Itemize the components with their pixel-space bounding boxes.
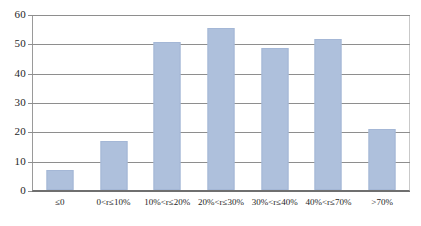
y-tick-mark-30 (28, 103, 32, 104)
bar-slot (194, 16, 248, 190)
bar-slot (87, 16, 141, 190)
bars-container (33, 16, 409, 190)
y-tick-mark-20 (28, 132, 32, 133)
bar-slot (140, 16, 194, 190)
y-tick-label: 0 (2, 185, 26, 196)
y-tick-label: 30 (2, 97, 26, 108)
bar-slot (355, 16, 409, 190)
y-tick-label: 60 (2, 9, 26, 20)
y-tick-mark-0 (28, 191, 32, 192)
bar-slot (302, 16, 356, 190)
bar[interactable] (261, 48, 288, 190)
x-axis-labels: ≤00<r≤10%10%<r≤20%20%<r≤30%30%<r≤40%40%<… (33, 196, 409, 216)
bar-slot (33, 16, 87, 190)
y-tick-label: 50 (2, 38, 26, 49)
bar[interactable] (154, 42, 181, 190)
x-axis-label: >70% (349, 196, 415, 208)
bar[interactable] (207, 28, 234, 190)
bar[interactable] (46, 170, 73, 190)
y-tick-mark-10 (28, 162, 32, 163)
y-tick-mark-50 (28, 44, 32, 45)
y-tick-mark-60 (28, 15, 32, 16)
bar-slot (248, 16, 302, 190)
y-tick-label: 40 (2, 68, 26, 79)
bar[interactable] (369, 129, 396, 190)
gridline-0 (32, 191, 410, 192)
y-tick-mark-40 (28, 74, 32, 75)
bar[interactable] (100, 141, 127, 190)
bar-chart: 0102030405060 ≤00<r≤10%10%<r≤20%20%<r≤30… (0, 0, 421, 226)
bar[interactable] (315, 39, 342, 190)
y-tick-label: 20 (2, 126, 26, 137)
y-tick-label: 10 (2, 156, 26, 167)
